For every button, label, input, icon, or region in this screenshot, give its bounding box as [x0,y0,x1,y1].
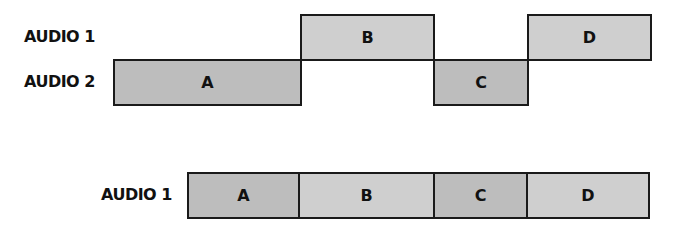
clip-a-label: A [201,73,213,92]
segment-d-label: D [581,186,594,205]
segment-c: C [435,174,528,217]
clip-b: B [300,14,435,61]
clip-a: A [113,59,302,106]
merged-track-strip: A B C D [187,172,650,219]
track-label-audio-2: AUDIO 2 [24,72,95,92]
segment-c-label: C [475,186,487,205]
segment-b-label: B [360,186,372,205]
clip-d: D [527,14,652,61]
segment-a: A [189,174,300,217]
track-label-audio-1: AUDIO 1 [24,27,95,47]
clip-b-label: B [361,28,373,47]
merged-track-label: AUDIO 1 [101,185,172,205]
segment-a-label: A [237,186,249,205]
clip-d-label: D [583,28,596,47]
segment-d: D [528,174,648,217]
clip-c: C [433,59,529,106]
clip-c-label: C [475,73,487,92]
segment-b: B [300,174,435,217]
